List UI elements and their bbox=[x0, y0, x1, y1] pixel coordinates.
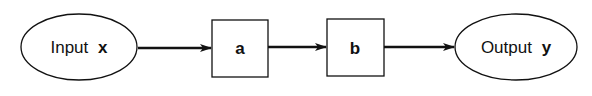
node-a-label: a bbox=[235, 39, 245, 58]
input-label: Input bbox=[50, 38, 88, 57]
input-node: Input x bbox=[21, 14, 137, 80]
output-node: Output y bbox=[455, 14, 577, 80]
input-var: x bbox=[98, 38, 108, 57]
output-label: Output bbox=[481, 38, 532, 57]
node-a: a bbox=[212, 20, 268, 77]
svg-text:Output y: Output y bbox=[481, 38, 552, 57]
node-b: b bbox=[327, 19, 384, 76]
flow-diagram: Input x a b Output y bbox=[0, 0, 592, 96]
node-b-label: b bbox=[350, 39, 360, 58]
output-var: y bbox=[542, 38, 552, 57]
svg-text:Input x: Input x bbox=[50, 38, 108, 57]
